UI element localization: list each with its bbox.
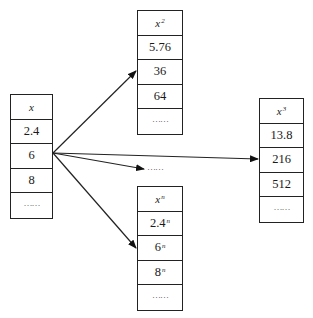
nth-value: 2.4n [138,212,182,237]
cube-value: 512 [260,173,303,198]
target-table-cube: x3 13.8 216 512 …… [259,98,304,223]
cube-value: 216 [260,148,303,173]
source-value: 6 [11,144,52,169]
source-value: 2.4 [11,120,52,145]
source-ellipsis: …… [11,193,52,218]
nth-ellipsis: …… [138,285,182,310]
cube-header: x3 [260,99,303,124]
square-ellipsis: …… [138,109,182,134]
arrow-to-square [53,71,136,153]
square-value: 5.76 [138,36,182,61]
cube-ellipsis: …… [260,197,303,222]
target-table-nth-power: xn 2.4n 6n 8n …… [137,186,183,311]
square-value: 64 [138,85,182,110]
square-header: x2 [138,11,182,36]
cube-value: 13.8 [260,124,303,149]
target-table-square: x2 5.76 36 64 …… [137,10,183,135]
square-value: 36 [138,60,182,85]
source-header: x [11,95,52,120]
middle-ellipsis: …… [147,162,163,172]
nth-value: 6n [138,236,182,261]
nth-value: 8n [138,261,182,286]
source-value: 8 [11,169,52,194]
source-table-x: x 2.4 6 8 …… [10,94,53,219]
arrow-to-nth-power [53,153,136,248]
nth-header: xn [138,187,182,212]
